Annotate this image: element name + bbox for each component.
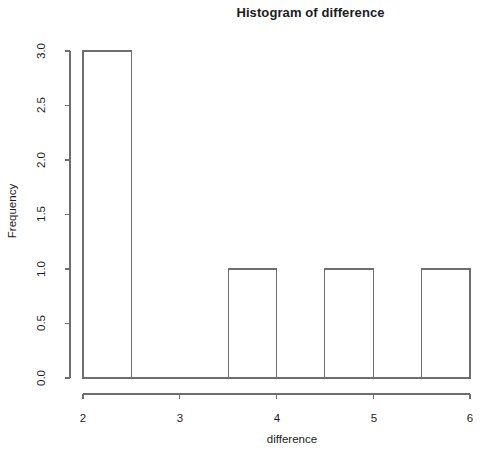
bar-series [83,51,470,378]
x-tick-label-4: 6 [455,412,485,424]
y-tick-label-3: 1.5 [35,199,47,229]
x-tick-label-0: 2 [68,412,98,424]
y-axis-title: Frequency [6,176,18,246]
histogram-bar [325,269,373,378]
x-axis-title: difference [227,433,357,445]
y-tick-label-0: 0.0 [35,363,47,393]
x-tick-label-3: 5 [359,412,389,424]
y-tick-label-6: 3.0 [35,36,47,66]
histogram-bar [228,269,276,378]
x-tick-label-2: 4 [262,412,292,424]
y-tick-label-2: 1.0 [35,254,47,284]
y-tick-label-1: 0.5 [35,308,47,338]
histogram-bar [83,51,131,378]
y-tick-label-4: 2.0 [35,145,47,175]
x-tick-label-1: 3 [165,412,195,424]
y-tick-label-5: 2.5 [35,90,47,120]
histogram-figure: Histogram of difference 0.0 0.5 1.0 1.5 … [0,0,486,453]
histogram-bar [422,269,470,378]
plot-area [0,0,486,453]
